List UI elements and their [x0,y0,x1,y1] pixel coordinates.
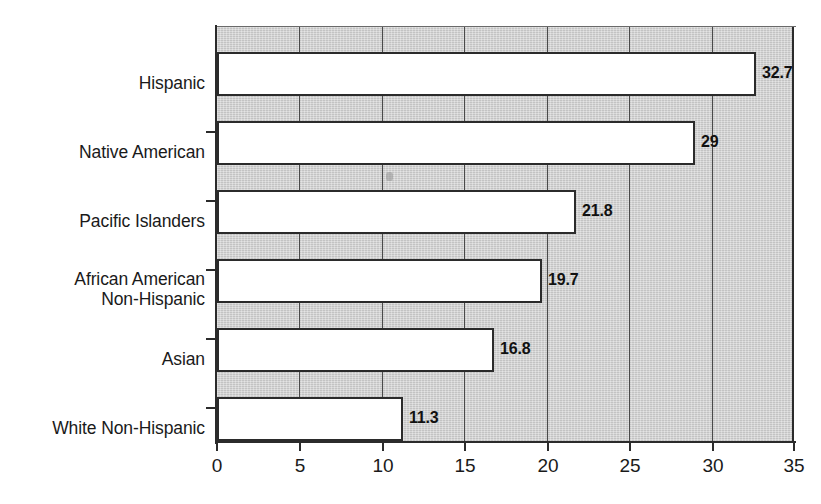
x-axis-label-15: 15 [454,455,475,477]
y-axis-line [215,25,217,444]
bar-african-american [217,259,542,303]
bar-white-non-hispanic [217,397,403,441]
x-axis-line [215,441,796,443]
bar-value-asian: 16.8 [500,340,530,358]
x-axis-tick-labels: 0 5 10 15 20 25 30 35 [0,455,821,495]
bar-value-hispanic: 32.7 [762,64,792,82]
y-axis-label-pacific-islanders: Pacific Islanders [0,212,205,232]
plot-top-border [215,26,796,27]
y-tick-3 [206,269,216,271]
bar-asian [217,328,494,372]
gridline-35 [792,27,794,442]
y-tick-4 [206,338,216,340]
y-axis-label-hispanic: Hispanic [0,74,205,94]
x-axis-label-0: 0 [212,455,223,477]
x-axis-label-5: 5 [295,455,306,477]
x-tick-0 [216,443,218,451]
bar-value-african-american: 19.7 [548,271,578,289]
x-tick-30 [712,443,714,451]
x-tick-35 [793,443,795,451]
y-tick-2 [206,200,216,202]
x-tick-25 [629,443,631,451]
x-axis-label-10: 10 [372,455,393,477]
plot-area: 32.7 29 21.8 19.7 16.8 11.3 [217,27,794,442]
x-tick-5 [299,443,301,451]
x-tick-10 [382,443,384,451]
bar-value-white-non-hispanic: 11.3 [409,409,438,427]
bar-value-pacific-islanders: 21.8 [582,202,612,220]
y-tick-1 [206,131,216,133]
y-axis-label-asian: Asian [0,350,205,370]
y-axis-label-african-american-non-hispanic: African American Non-Hispanic [0,270,205,309]
bar-value-native-american: 29 [701,133,718,151]
bar-pacific-islanders [217,190,576,234]
bar-native-american [217,121,695,165]
y-axis-label-native-american: Native American [0,143,205,163]
y-axis-label-white-non-hispanic: White Non-Hispanic [0,419,205,439]
y-axis-category-labels: Hispanic Native American Pacific Islande… [0,27,205,442]
x-tick-20 [547,443,549,451]
scan-artifact [386,172,393,181]
x-axis-label-25: 25 [619,455,640,477]
bar-chart: Hispanic Native American Pacific Islande… [0,0,821,504]
x-tick-15 [464,443,466,451]
x-axis-label-30: 30 [702,455,723,477]
y-tick-5 [206,407,216,409]
x-axis-label-20: 20 [537,455,558,477]
x-axis-label-35: 35 [783,455,804,477]
bar-hispanic [217,52,756,96]
